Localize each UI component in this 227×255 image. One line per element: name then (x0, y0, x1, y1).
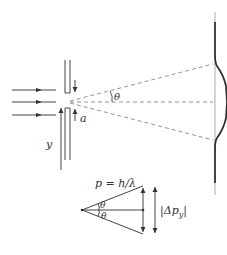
slit-width-label: a (80, 112, 87, 125)
angle-lower-label: θ (101, 211, 107, 221)
angle-upper-label: θ (100, 200, 106, 210)
triangle-apex-dot (81, 209, 84, 212)
momentum-triangle (82, 186, 143, 234)
incident-rays (12, 88, 56, 117)
intensity-curve (215, 22, 227, 183)
angle-arc (110, 91, 112, 102)
diffraction-diagram: y a θ θ θ p = h/λ |Δpy| (0, 0, 227, 255)
angle-label: θ (114, 91, 120, 102)
triangle-mid-dot (142, 209, 145, 212)
diffraction-lines (70, 64, 213, 140)
momentum-spread-label: |Δpy| (160, 204, 187, 219)
slit-barrier (65, 60, 70, 160)
momentum-label: p = h/λ (95, 177, 136, 190)
y-axis-label: y (45, 138, 53, 151)
